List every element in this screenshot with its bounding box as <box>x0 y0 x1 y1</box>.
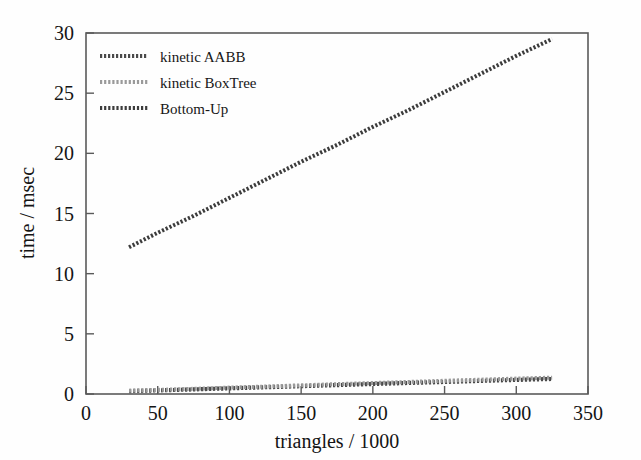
x-tick-label: 300 <box>501 402 531 424</box>
x-tick-label: 250 <box>430 402 460 424</box>
y-tick-label: 0 <box>64 383 74 405</box>
series-line-2 <box>129 39 552 247</box>
y-axis-tick-labels: 051015202530 <box>54 22 74 405</box>
y-axis-ticks <box>86 33 94 394</box>
data-series-group <box>129 39 552 391</box>
chart-figure: 050100150200250300350 051015202530 trian… <box>0 0 641 460</box>
x-tick-label: 0 <box>81 402 91 424</box>
series-line-1 <box>129 378 552 391</box>
y-tick-label: 5 <box>64 323 74 345</box>
y-tick-label: 15 <box>54 203 74 225</box>
legend: kinetic AABBkinetic BoxTreeBottom-Up <box>100 49 257 117</box>
legend-label: kinetic BoxTree <box>160 75 257 91</box>
x-tick-label: 350 <box>573 402 603 424</box>
x-axis-tick-labels: 050100150200250300350 <box>81 402 603 424</box>
y-axis-title: time / msec <box>16 167 38 259</box>
line-chart: 050100150200250300350 051015202530 trian… <box>0 0 641 460</box>
y-tick-label: 20 <box>54 142 74 164</box>
y-tick-label: 25 <box>54 82 74 104</box>
x-tick-label: 100 <box>214 402 244 424</box>
x-tick-label: 150 <box>286 402 316 424</box>
y-tick-label: 30 <box>54 22 74 44</box>
x-tick-label: 50 <box>148 402 168 424</box>
y-tick-label: 10 <box>54 263 74 285</box>
legend-label: kinetic AABB <box>160 49 245 65</box>
x-tick-label: 200 <box>358 402 388 424</box>
x-axis-title: triangles / 1000 <box>275 430 399 453</box>
legend-label: Bottom-Up <box>160 101 228 117</box>
